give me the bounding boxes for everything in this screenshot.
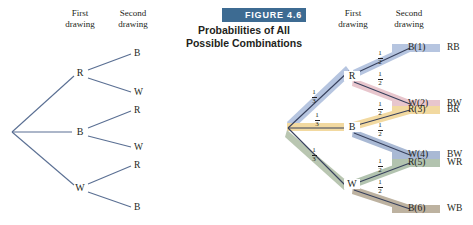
right-node-w: W: [344, 179, 360, 189]
prob-r-w2-den: 2: [374, 80, 386, 87]
right-header-second: Second drawing: [381, 8, 437, 30]
left-leaf-1: B: [134, 48, 140, 58]
prob-w-b6-num: 1: [374, 179, 386, 186]
combination-5: WR: [447, 157, 462, 167]
left-header-second-line2: drawing: [118, 19, 148, 29]
right-header-first: First drawing: [325, 8, 381, 30]
figure-page: First drawing Second drawing R B W B W R…: [0, 0, 473, 225]
left-node-r: R: [72, 68, 88, 78]
prob-r-w2: 1 2: [374, 71, 386, 87]
prob-r-w2-num: 1: [374, 71, 386, 78]
right-node-b: B: [344, 122, 360, 132]
left-header-first-line1: First: [72, 8, 89, 18]
prob-b-r3-den: 2: [374, 110, 386, 117]
right-header-first-line1: First: [345, 8, 362, 18]
right-leaf-6: B(6): [408, 203, 425, 213]
prob-r-b1-den: 2: [374, 59, 386, 66]
prob-b-r3-num: 1: [374, 101, 386, 108]
combination-1: RB: [447, 42, 460, 52]
prob-w-r5: 1 2: [374, 158, 386, 174]
prob-root-r-den: 3: [308, 98, 320, 105]
right-header-second-line2: drawing: [394, 19, 424, 29]
prob-root-w-den: 3: [308, 156, 320, 163]
figure-caption-line1: Probabilities of All: [198, 24, 290, 36]
left-leaf-3: R: [134, 105, 140, 115]
prob-b-w4: 1 2: [374, 122, 386, 138]
right-node-r: R: [344, 71, 360, 81]
prob-root-b-den: 3: [311, 121, 323, 128]
left-header-first: First drawing: [52, 8, 108, 30]
prob-w-b6-den: 2: [374, 188, 386, 195]
prob-r-b1-num: 1: [374, 50, 386, 57]
prob-root-w-num: 1: [308, 147, 320, 154]
left-leaf-4: W: [134, 142, 143, 152]
figure-badge: FIGURE 4.6: [222, 8, 306, 22]
prob-root-b-num: 1: [311, 112, 323, 119]
combination-3: BR: [447, 104, 460, 114]
left-node-b: B: [72, 127, 88, 137]
prob-root-w: 1 3: [308, 147, 320, 163]
prob-root-r: 1 3: [308, 89, 320, 105]
prob-w-b6: 1 2: [374, 179, 386, 195]
prob-b-w4-den: 2: [374, 131, 386, 138]
prob-w-r5-num: 1: [374, 158, 386, 165]
right-header-first-line2: drawing: [338, 19, 368, 29]
prob-root-b: 1 3: [311, 112, 323, 128]
prob-b-w4-num: 1: [374, 122, 386, 129]
left-leaf-5: R: [134, 160, 140, 170]
left-leaf-6: B: [134, 202, 140, 212]
prob-b-r3: 1 2: [374, 101, 386, 117]
figure-caption: Probabilities of All Possible Combinatio…: [178, 24, 310, 50]
prob-root-r-num: 1: [308, 89, 320, 96]
left-header-first-line2: drawing: [65, 19, 95, 29]
combination-6: WB: [447, 203, 462, 213]
prob-w-r5-den: 2: [374, 167, 386, 174]
right-leaf-3: R(3): [408, 104, 425, 114]
left-leaf-2: W: [134, 87, 143, 97]
right-header-second-line1: Second: [396, 8, 423, 18]
left-node-w: W: [72, 183, 88, 193]
right-leaf-1: B(1): [408, 42, 425, 52]
left-header-second-line1: Second: [120, 8, 147, 18]
figure-caption-line2: Possible Combinations: [186, 37, 302, 49]
left-header-second: Second drawing: [105, 8, 161, 30]
right-leaf-5: R(5): [408, 157, 425, 167]
prob-r-b1: 1 2: [374, 50, 386, 66]
